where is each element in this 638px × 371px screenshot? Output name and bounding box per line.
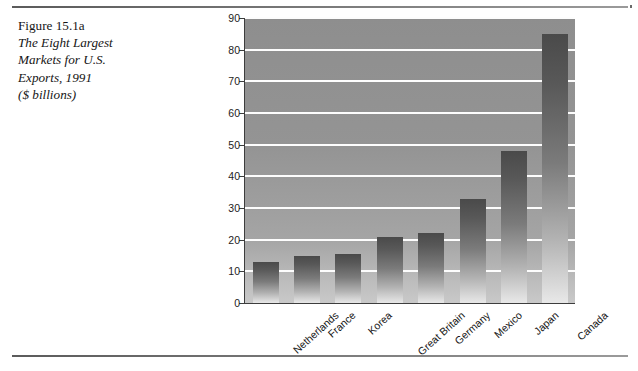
plot-area [245, 18, 575, 303]
y-tick-label: 10 [200, 265, 240, 277]
x-tick-label: Mexico [491, 309, 524, 340]
gridline [245, 112, 575, 114]
caption-line-3: Markets for U.S. [18, 51, 193, 68]
bar [294, 256, 320, 304]
x-axis-line [244, 303, 575, 304]
caption-line-2: The Eight Largest [18, 34, 193, 51]
caption-line-4: Exports, 1991 [18, 69, 193, 86]
caption-line-1: Figure 15.1a [18, 17, 193, 34]
y-tick-label: 80 [200, 44, 240, 56]
x-tick-label: Canada [575, 309, 610, 343]
figure-caption: Figure 15.1aThe Eight LargestMarkets for… [18, 17, 193, 103]
y-tick-label: 30 [200, 202, 240, 214]
bar [335, 254, 361, 303]
y-axis-line [244, 18, 245, 304]
bar [418, 233, 444, 303]
gridline [245, 144, 575, 146]
page-rule-end-dot [630, 5, 632, 8]
x-tick-label: Korea [366, 309, 395, 337]
page-rule-top [12, 6, 628, 8]
y-tick-label: 60 [200, 107, 240, 119]
bar [253, 262, 279, 303]
gridline [245, 17, 575, 19]
bar-chart: 0102030405060708090 NetherlandsFranceKor… [215, 18, 575, 318]
y-tick-label: 0 [200, 297, 240, 309]
y-tick-label: 90 [200, 12, 240, 24]
y-tick-label: 40 [200, 170, 240, 182]
bar [460, 199, 486, 304]
caption-line-5: ($ billions) [18, 86, 193, 103]
y-tick-label: 70 [200, 75, 240, 87]
gridline [245, 80, 575, 82]
bar [542, 34, 568, 303]
page-rule-bottom [12, 355, 628, 357]
bar [501, 151, 527, 303]
bar [377, 237, 403, 304]
y-tick-label: 50 [200, 139, 240, 151]
x-tick-label: Japan [531, 309, 560, 337]
y-tick-label: 20 [200, 234, 240, 246]
gridline [245, 49, 575, 51]
